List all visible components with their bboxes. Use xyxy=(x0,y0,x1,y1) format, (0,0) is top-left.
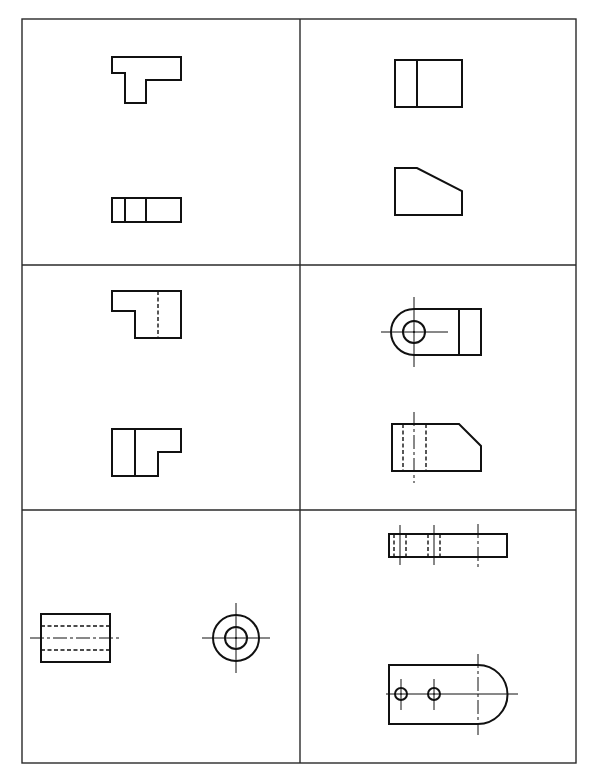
cell-r2c2 xyxy=(381,297,481,483)
cell-r1c2 xyxy=(395,60,462,215)
rounded-plate-top-view xyxy=(386,654,518,735)
step-solid-view xyxy=(112,429,181,476)
drawing-sheet xyxy=(0,0,596,784)
cylinder-side-view xyxy=(30,614,121,662)
chamfer-block-front-view xyxy=(392,412,481,483)
t-shape-view xyxy=(112,57,181,103)
cell-r3c1 xyxy=(30,603,270,673)
split-rect-view xyxy=(395,60,462,107)
concentric-circles-end-view xyxy=(202,603,270,673)
cell-r2c1 xyxy=(112,291,181,476)
step-hidden-view xyxy=(112,291,181,338)
cell-r1c1 xyxy=(112,57,181,222)
lug-top-view xyxy=(381,297,481,367)
bar-edge-view xyxy=(389,524,507,569)
sheet-frame xyxy=(22,19,576,763)
three-part-rect-view xyxy=(112,198,181,222)
chamfer-profile-view xyxy=(395,168,462,215)
cell-r3c2 xyxy=(386,524,518,735)
